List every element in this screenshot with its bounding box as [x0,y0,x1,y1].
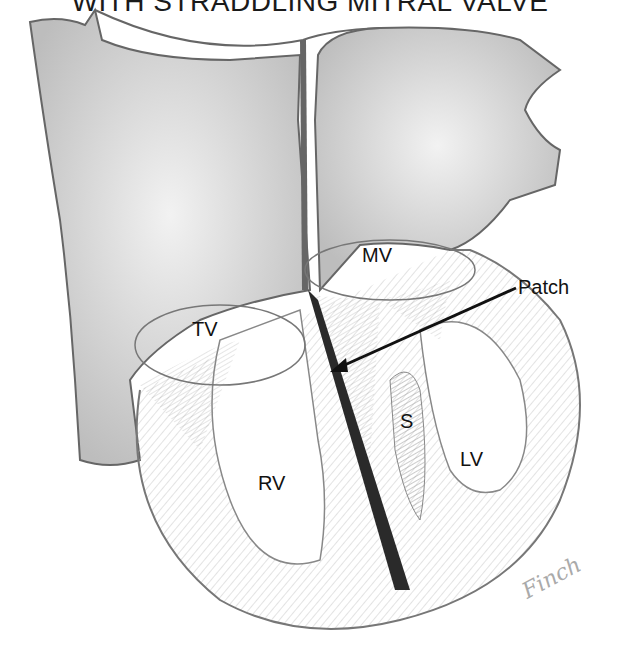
label-mv: MV [362,244,392,267]
left-atrium [315,28,560,291]
heart-illustration [0,0,620,648]
atrial-septum [303,40,305,290]
label-rv: RV [258,472,285,495]
label-lv: LV [460,448,483,471]
label-patch: Patch [518,276,569,299]
label-tv: TV [192,318,218,341]
label-s: S [400,410,413,433]
